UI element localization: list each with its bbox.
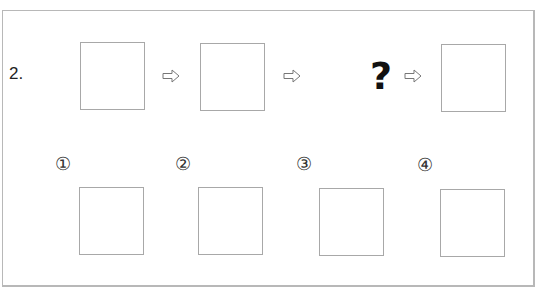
question-number: 2. (9, 64, 23, 84)
option-1-label[interactable]: ① (55, 155, 71, 173)
option-4-label[interactable]: ④ (417, 156, 433, 174)
option-2-label[interactable]: ② (175, 155, 191, 173)
option-2-box[interactable] (198, 187, 263, 255)
sequence-box-3 (441, 44, 506, 112)
sequence-box-1 (80, 42, 145, 110)
option-4-box[interactable] (440, 189, 505, 257)
option-1-box[interactable] (79, 187, 144, 255)
option-3-box[interactable] (319, 188, 384, 256)
sequence-box-2 (200, 43, 265, 111)
right-arrow-outline-icon (162, 69, 180, 83)
option-3-label[interactable]: ③ (296, 155, 312, 173)
right-arrow-outline-icon (404, 69, 422, 83)
unknown-question-mark: ? (370, 57, 392, 95)
right-arrow-outline-icon (283, 69, 301, 83)
